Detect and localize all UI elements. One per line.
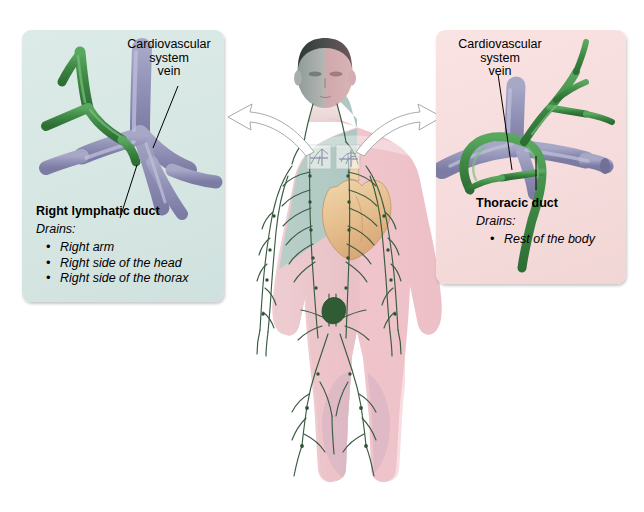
drains-item: Rest of the body bbox=[488, 232, 595, 248]
thoracic-duct-title: Thoracic duct bbox=[476, 196, 558, 210]
drains-list-right: Rest of the body bbox=[488, 232, 595, 248]
vein-label-right-line-0: Cardiovascular bbox=[444, 38, 556, 52]
vein-label-right-line-1: system bbox=[444, 52, 556, 66]
drains-item: Right side of the head bbox=[44, 256, 189, 272]
vein-label-left-line-0: Cardiovascular bbox=[118, 38, 220, 52]
drains-item: Right side of the thorax bbox=[44, 271, 189, 287]
drains-label-left: Drains: bbox=[36, 222, 76, 236]
cisterna-chyli bbox=[322, 298, 346, 324]
arrow-to-left-panel bbox=[222, 100, 318, 160]
cardiovascular-vein-label-left: Cardiovascularsystemvein bbox=[118, 38, 220, 79]
diagram-canvas: Cardiovascularsystemvein Right lymphatic… bbox=[0, 0, 644, 512]
right-lymphatic-duct-panel: Cardiovascularsystemvein Right lymphatic… bbox=[22, 30, 224, 302]
thoracic-duct-panel: Cardiovascularsystemvein Thoracic duct D… bbox=[436, 30, 626, 284]
vein-label-left-line-1: system bbox=[118, 52, 220, 66]
arrow-to-right-panel bbox=[352, 98, 448, 158]
drains-label-right: Drains: bbox=[476, 214, 516, 228]
cardiovascular-vein-label-right: Cardiovascularsystemvein bbox=[444, 38, 556, 79]
right-lymphatic-duct-title: Right lymphatic duct bbox=[36, 204, 160, 218]
vein-label-right-line-2: vein bbox=[444, 65, 556, 79]
vein-label-left-line-2: vein bbox=[118, 65, 220, 79]
drains-list-left: Right armRight side of the headRight sid… bbox=[44, 240, 189, 287]
drains-item: Right arm bbox=[44, 240, 189, 256]
